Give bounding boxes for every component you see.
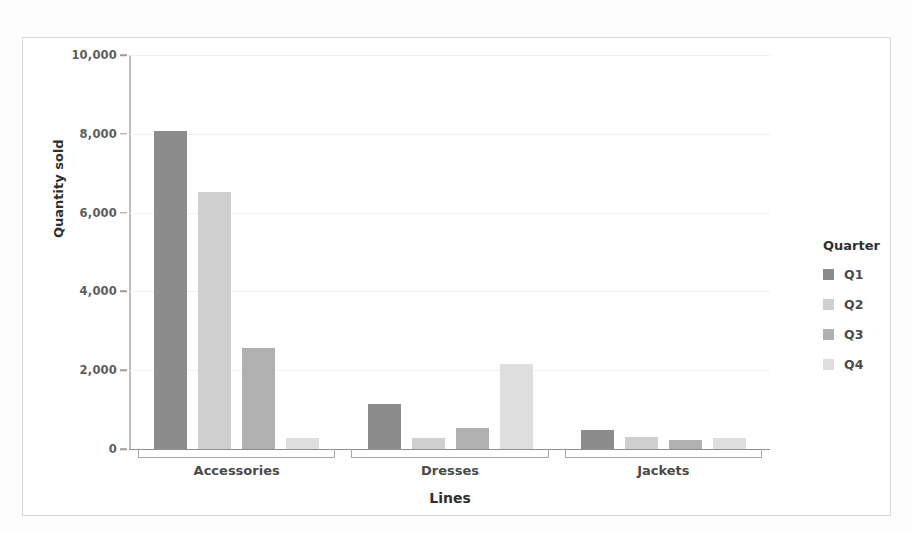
legend-label: Q4 (844, 357, 863, 372)
y-tick-label: 4,000 (80, 284, 117, 298)
x-tick-label-accessories: Accessories (130, 463, 343, 478)
bar-dresses-q2[interactable] (412, 438, 445, 449)
bar-dresses-q3[interactable] (456, 428, 489, 449)
y-tick-mark (120, 448, 127, 450)
category-bracket (565, 449, 762, 458)
legend-swatch-icon (823, 299, 834, 310)
legend-item-q2[interactable]: Q2 (823, 297, 907, 312)
legend: Quarter Q1Q2Q3Q4 (823, 238, 907, 387)
y-tick-mark (120, 133, 127, 135)
legend-title: Quarter (823, 238, 907, 253)
bar-dresses-q1[interactable] (368, 404, 401, 449)
bar-jackets-q2[interactable] (625, 437, 658, 449)
y-tick-label: 2,000 (80, 363, 117, 377)
y-tick-label: 0 (109, 442, 117, 456)
legend-label: Q3 (844, 327, 863, 342)
x-axis-title: Lines (130, 490, 770, 506)
y-tick-mark (120, 212, 127, 214)
bar-jackets-q3[interactable] (669, 440, 702, 449)
y-tick-mark (120, 369, 127, 371)
legend-swatch-icon (823, 329, 834, 340)
bar-accessories-q1[interactable] (154, 131, 187, 449)
bar-jackets-q1[interactable] (581, 430, 614, 449)
y-tick-label: 8,000 (80, 127, 117, 141)
bar-jackets-q4[interactable] (713, 438, 746, 449)
plot-area: 02,0004,0006,0008,00010,000 AccessoriesD… (130, 55, 770, 449)
bar-accessories-q2[interactable] (198, 192, 231, 449)
category-bracket (351, 449, 548, 458)
x-tick-label-dresses: Dresses (343, 463, 556, 478)
bar-accessories-q4[interactable] (286, 438, 319, 449)
y-tick-label: 10,000 (71, 48, 117, 62)
legend-item-q4[interactable]: Q4 (823, 357, 907, 372)
category-bracket (138, 449, 335, 458)
bar-accessories-q3[interactable] (242, 348, 275, 449)
y-axis-title: Quantity sold (51, 139, 66, 238)
chart-frame: 02,0004,0006,0008,00010,000 AccessoriesD… (22, 37, 891, 516)
legend-swatch-icon (823, 359, 834, 370)
legend-item-q3[interactable]: Q3 (823, 327, 907, 342)
bar-dresses-q4[interactable] (500, 364, 533, 449)
legend-label: Q1 (844, 267, 863, 282)
bars-layer (130, 55, 770, 449)
legend-items: Q1Q2Q3Q4 (823, 267, 907, 372)
legend-label: Q2 (844, 297, 863, 312)
y-tick-mark (120, 54, 127, 56)
legend-item-q1[interactable]: Q1 (823, 267, 907, 282)
y-tick-mark (120, 291, 127, 293)
y-tick-label: 6,000 (80, 206, 117, 220)
legend-swatch-icon (823, 269, 834, 280)
x-tick-label-jackets: Jackets (557, 463, 770, 478)
